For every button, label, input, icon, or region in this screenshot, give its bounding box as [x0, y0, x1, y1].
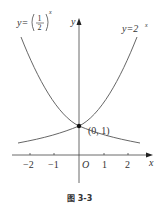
tick-label: −1 [48, 159, 59, 170]
left-paren [32, 14, 34, 31]
right-paren [46, 14, 48, 31]
curve-label-half-exp: x [48, 9, 52, 15]
tick-label: 2 [125, 159, 130, 170]
exponential-graph: (0, 1) −2 −1 O 1 2 x y y=2 x y= 1 2 x 图 … [0, 0, 164, 205]
point-label: (0, 1) [88, 125, 110, 137]
y-axis-arrow-icon [77, 18, 82, 25]
tick-label: −2 [23, 159, 34, 170]
curve-label-half: y= [16, 17, 28, 28]
figure-caption: 图 3-3 [67, 194, 92, 203]
tick-label: 1 [102, 159, 107, 170]
x-axis-label: x [148, 157, 154, 168]
origin-label: O [82, 159, 89, 170]
y-axis-label: y [70, 16, 76, 27]
intersection-point [77, 124, 81, 128]
fraction-numerator: 1 [38, 14, 42, 23]
curve-label-2x: y=2 [121, 23, 138, 34]
curve-label-2x-exp: x [144, 22, 148, 28]
fraction-denominator: 2 [38, 23, 42, 32]
